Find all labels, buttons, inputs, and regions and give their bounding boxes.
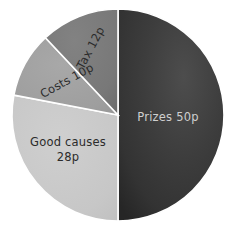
pie-label-good-causes-line1: Good causes <box>30 135 106 149</box>
pie-chart: Prizes 50p Good causes 28p Costs 10p Tax… <box>0 0 235 240</box>
pie-chart-container: Prizes 50p Good causes 28p Costs 10p Tax… <box>0 0 235 240</box>
pie-label-prizes: Prizes 50p <box>137 110 198 124</box>
pie-label-good-causes-line2: 28p <box>57 150 80 164</box>
